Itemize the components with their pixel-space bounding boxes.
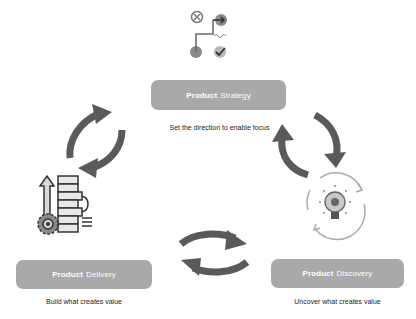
stage-product-delivery: Product Delivery: [16, 260, 152, 289]
stage-label-bold: Product: [303, 269, 334, 278]
stage-label-rest: Discovery: [336, 269, 372, 278]
bidirectional-arrows-icon: [60, 100, 130, 180]
stage-label-rest: Strategy: [220, 91, 251, 100]
stage-caption-discovery: Uncover what creates value: [271, 298, 404, 305]
stage-caption-strategy: Set the direction to enable focus: [152, 124, 287, 131]
stage-label-bold: Product: [186, 91, 217, 100]
lightbulb-gear-cycle-icon: [300, 170, 370, 240]
stage-caption-delivery: Build what creates value: [16, 298, 152, 305]
strategy-path-icon: [188, 8, 230, 64]
stage-product-strategy: Product Strategy: [151, 80, 286, 110]
stage-product-discovery: Product Discovery: [271, 259, 404, 288]
stage-label-rest: Delivery: [86, 270, 116, 279]
stage-label-bold: Product: [52, 270, 83, 279]
build-stack-gear-icon: [32, 172, 102, 242]
bidirectional-arrows-icon: [175, 228, 255, 278]
